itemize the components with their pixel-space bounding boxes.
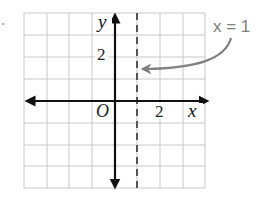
y-tick-label: 2 [97,45,106,64]
x-tick-label: 2 [155,102,164,121]
y-axis-label: y [96,11,107,32]
x-axis-label: x [187,100,197,121]
coordinate-graph: y 2 O 2 x x = 1 [0,0,266,207]
origin-label: O [96,101,109,121]
annotation-arrow [146,38,231,69]
stray-dot [2,23,4,25]
annotation-label: x = 1 [213,17,250,36]
